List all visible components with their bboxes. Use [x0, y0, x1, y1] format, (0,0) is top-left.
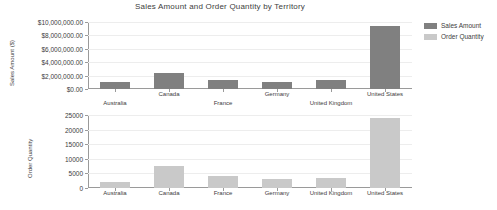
gridline	[88, 144, 412, 145]
bar[interactable]	[262, 82, 292, 89]
bar[interactable]	[208, 80, 238, 89]
x-axis-line	[88, 88, 412, 89]
gridline	[88, 35, 412, 36]
x-axis-category-label: Australia	[103, 190, 126, 196]
x-axis-category-label: France	[214, 190, 233, 196]
gridline	[88, 159, 412, 160]
y-axis-tick-label: 5000	[69, 170, 83, 177]
chart-legend: Sales Amount Order Quantity	[424, 21, 484, 43]
order-quantity-plot-area	[88, 115, 412, 188]
y-axis-tick-label: 20000	[65, 126, 83, 133]
x-axis-category-label: United States	[367, 91, 403, 97]
bar[interactable]	[262, 179, 292, 188]
y-axis-tick	[85, 159, 88, 160]
bar[interactable]	[370, 118, 400, 188]
y-axis-tick-label: $8,000,000.00	[41, 32, 83, 39]
y-axis-tick	[85, 89, 88, 90]
gridline	[88, 49, 412, 50]
x-axis-line	[88, 187, 412, 188]
page-title: Sales Amount and Order Quantity by Terri…	[0, 2, 440, 11]
x-axis-category-label: United Kingdom	[310, 100, 353, 106]
gridline	[88, 130, 412, 131]
y-axis-tick-label: $0.00	[67, 86, 83, 93]
order-quantity-subplot: Order Quantity 0500010000150002000025000…	[0, 110, 420, 210]
y-axis-tick	[85, 144, 88, 145]
bar[interactable]	[370, 26, 400, 89]
x-axis-category-label: Germany	[265, 190, 290, 196]
bar[interactable]	[208, 176, 238, 188]
bar[interactable]	[154, 73, 184, 89]
sales-amount-plot-area	[88, 22, 412, 89]
bar[interactable]	[316, 80, 346, 89]
chart-canvas: Sales Amount and Order Quantity by Terri…	[0, 0, 497, 210]
y-axis-tick-label: 25000	[65, 112, 83, 119]
gridline	[88, 173, 412, 174]
y-axis-tick	[85, 49, 88, 50]
x-axis-category-label: Germany	[265, 91, 290, 97]
gridline	[88, 76, 412, 77]
y-axis-tick	[85, 22, 88, 23]
y-axis-line	[88, 115, 89, 188]
y-axis-label-order-quantity: Order Quantity	[27, 139, 33, 178]
x-axis-tick	[223, 89, 224, 92]
legend-item-sales-amount[interactable]: Sales Amount	[424, 21, 484, 30]
y-axis-tick	[85, 188, 88, 189]
y-axis-tick-label: $2,000,000.00	[41, 72, 83, 79]
y-axis-line	[88, 22, 89, 89]
y-axis-tick-label: $4,000,000.00	[41, 59, 83, 66]
bar[interactable]	[154, 166, 184, 188]
y-axis-tick-label: $10,000,000.00	[38, 19, 83, 26]
x-axis-tick	[115, 89, 116, 92]
y-axis-tick	[85, 76, 88, 77]
legend-swatch-order-quantity	[424, 34, 437, 40]
gridline	[88, 62, 412, 63]
y-axis-tick	[85, 62, 88, 63]
x-axis-category-label: Canada	[158, 91, 179, 97]
y-axis-tick	[85, 35, 88, 36]
x-axis-category-label: France	[214, 100, 233, 106]
y-axis-tick	[85, 173, 88, 174]
bar[interactable]	[100, 82, 130, 89]
y-axis-tick-label: 15000	[65, 141, 83, 148]
gridline	[88, 22, 412, 23]
y-axis-tick	[85, 115, 88, 116]
y-axis-tick-label: 0	[79, 185, 83, 192]
legend-label-order-quantity: Order Quantity	[441, 33, 484, 40]
x-axis-category-label: United Kingdom	[310, 190, 353, 196]
y-axis-tick-label: 10000	[65, 155, 83, 162]
legend-item-order-quantity[interactable]: Order Quantity	[424, 32, 484, 41]
y-axis-tick-label: $6,000,000.00	[41, 45, 83, 52]
sales-amount-subplot: Sales Amount ($) $0.00$2,000,000.00$4,00…	[0, 18, 420, 104]
bar[interactable]	[316, 178, 346, 188]
x-axis-category-label: Canada	[158, 190, 179, 196]
gridline	[88, 115, 412, 116]
x-axis-category-label: Australia	[103, 100, 126, 106]
x-axis-category-label: United States	[367, 190, 403, 196]
legend-label-sales-amount: Sales Amount	[441, 22, 481, 29]
legend-swatch-sales-amount	[424, 23, 437, 29]
x-axis-tick	[331, 89, 332, 92]
y-axis-label-sales-amount: Sales Amount ($)	[9, 40, 15, 86]
y-axis-tick	[85, 130, 88, 131]
